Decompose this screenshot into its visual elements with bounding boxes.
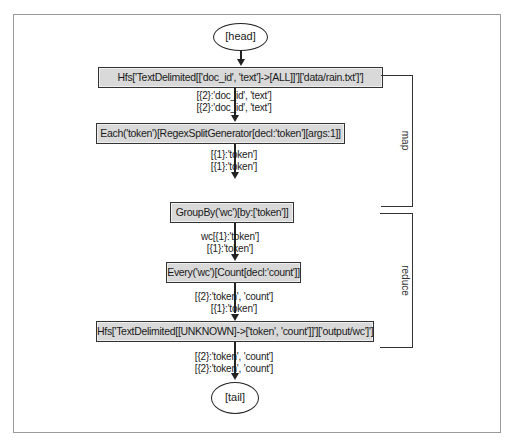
arrow-icon [237, 59, 245, 66]
groupby-node: GroupBy('wc')[by:['token']] [170, 202, 294, 223]
source-tap-node: Hfs['TextDelimited[['doc_id', 'text']->[… [98, 67, 383, 88]
arrow-icon [231, 115, 239, 122]
edge-label: [{1}:'token'] [194, 161, 274, 172]
edge-label: [{2}:'doc_id', 'text'] [184, 90, 284, 101]
edge-label: [{1}:'token'] [184, 303, 284, 314]
every-node: Every('wc')[Count[decl:'count']] [166, 262, 301, 283]
arrow-icon [231, 172, 239, 179]
each-node: Each('token')[RegexSplitGenerator[decl:'… [96, 123, 345, 144]
arrow-icon [231, 373, 239, 380]
reduce-label: reduce [400, 256, 411, 306]
tail-node: [tail] [211, 382, 259, 414]
arrow-icon [231, 314, 239, 321]
map-label: map [400, 121, 411, 161]
edge-label: [{1}:'token'] [194, 149, 274, 160]
arrow-icon [231, 254, 239, 261]
edge-label: wc[{1}:'token'] [190, 231, 270, 242]
sink-tap-node: Hfs['TextDelimited[[UNKNOWN]->['token', … [96, 321, 374, 342]
edge-label: [{2}:'token', 'count'] [184, 351, 284, 362]
edge-label: [{1}:'token'] [190, 243, 270, 254]
head-node: [head] [213, 23, 268, 51]
edge-label: [{2}:'doc_id', 'text'] [184, 102, 284, 113]
edge-label: [{2}:'token', 'count'] [184, 291, 284, 302]
